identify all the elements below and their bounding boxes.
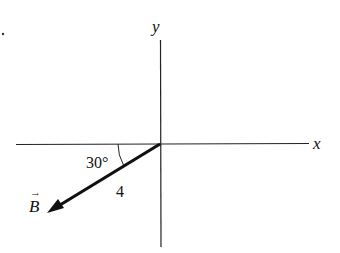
vector-b-shaft <box>60 144 160 205</box>
x-axis <box>16 144 309 145</box>
y-axis <box>161 40 162 247</box>
angle-label: 30° <box>86 154 108 171</box>
vector-b-arrowhead <box>47 199 64 213</box>
x-axis-label: x <box>312 134 321 153</box>
y-axis-label: y <box>150 17 160 36</box>
stray-dot <box>2 33 4 35</box>
magnitude-label: 4 <box>116 183 124 200</box>
vector-name-label: B <box>29 197 40 216</box>
vector-arrow-accent: → <box>30 186 41 198</box>
vector-diagram: y x 30° 4 B → <box>0 0 340 253</box>
angle-arc <box>118 144 124 165</box>
